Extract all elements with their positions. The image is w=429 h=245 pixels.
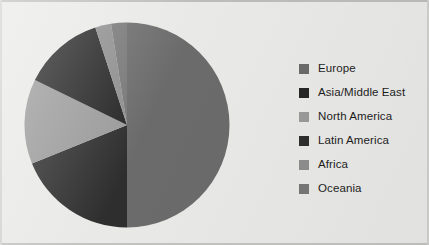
legend-swatch-icon bbox=[299, 136, 309, 146]
pie-slice-europe bbox=[127, 23, 230, 228]
legend-item-label: Oceania bbox=[318, 182, 362, 195]
legend-item-latin-america[interactable]: Latin America bbox=[299, 130, 425, 151]
legend-item-label: Asia/Middle East bbox=[318, 86, 405, 99]
legend-swatch-icon bbox=[299, 184, 309, 194]
legend-swatch-icon bbox=[299, 88, 309, 98]
legend-item-africa[interactable]: Africa bbox=[299, 154, 425, 175]
legend-item-north-america[interactable]: North America bbox=[299, 106, 425, 127]
legend-swatch-icon bbox=[299, 160, 309, 170]
legend-item-europe[interactable]: Europe bbox=[299, 58, 425, 79]
legend-item-asia-middle-east[interactable]: Asia/Middle East bbox=[299, 82, 425, 103]
legend-item-label: Latin America bbox=[318, 134, 389, 147]
legend-item-label: Africa bbox=[318, 158, 348, 171]
legend-item-label: North America bbox=[318, 110, 392, 123]
figure-border-left bbox=[0, 0, 2, 245]
pie-slice-group bbox=[24, 23, 229, 228]
legend-item-label: Europe bbox=[318, 62, 356, 75]
pie-chart-figure: EuropeAsia/Middle EastNorth AmericaLatin… bbox=[0, 0, 429, 245]
legend-swatch-icon bbox=[299, 64, 309, 74]
legend-item-oceania[interactable]: Oceania bbox=[299, 178, 425, 199]
figure-border-top bbox=[0, 0, 429, 2]
pie-svg bbox=[24, 22, 230, 228]
legend: EuropeAsia/Middle EastNorth AmericaLatin… bbox=[299, 58, 425, 202]
legend-swatch-icon bbox=[299, 112, 309, 122]
pie-plot-area bbox=[24, 22, 230, 228]
